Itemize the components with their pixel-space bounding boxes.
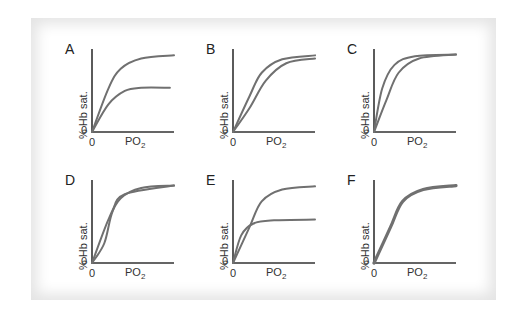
panel-f: F % Hb sat. 0 0 PO2 — [344, 170, 474, 295]
plot-area — [62, 39, 192, 164]
plot-area — [203, 39, 333, 164]
dissociation-curve-1 — [374, 55, 456, 132]
plot-area — [203, 170, 333, 295]
plot-area — [344, 170, 474, 295]
dissociation-curve-2 — [374, 55, 456, 132]
dissociation-curve-1 — [233, 55, 315, 132]
axes — [233, 49, 315, 132]
dissociation-curve-2 — [92, 88, 170, 132]
plot-area — [62, 170, 192, 295]
plot-area — [344, 39, 474, 164]
panel-d: D % Hb sat. 0 0 PO2 — [62, 170, 192, 295]
panel-b: B % Hb sat. 0 0 PO2 — [203, 39, 333, 164]
dissociation-curve-1 — [233, 186, 315, 263]
panel-e: E % Hb sat. 0 0 PO2 — [203, 170, 333, 295]
dissociation-curve-1 — [92, 186, 174, 263]
dissociation-curve-2 — [233, 220, 315, 263]
dissociation-curve-1 — [374, 186, 456, 263]
axes — [374, 49, 456, 132]
dissociation-curve-2 — [92, 186, 174, 263]
dissociation-curve-1 — [92, 55, 174, 132]
panel-c: C % Hb sat. 0 0 PO2 — [344, 39, 474, 164]
panel-a: A % Hb sat. 0 0 PO2 — [62, 39, 192, 164]
dissociation-curve-2 — [233, 59, 315, 132]
